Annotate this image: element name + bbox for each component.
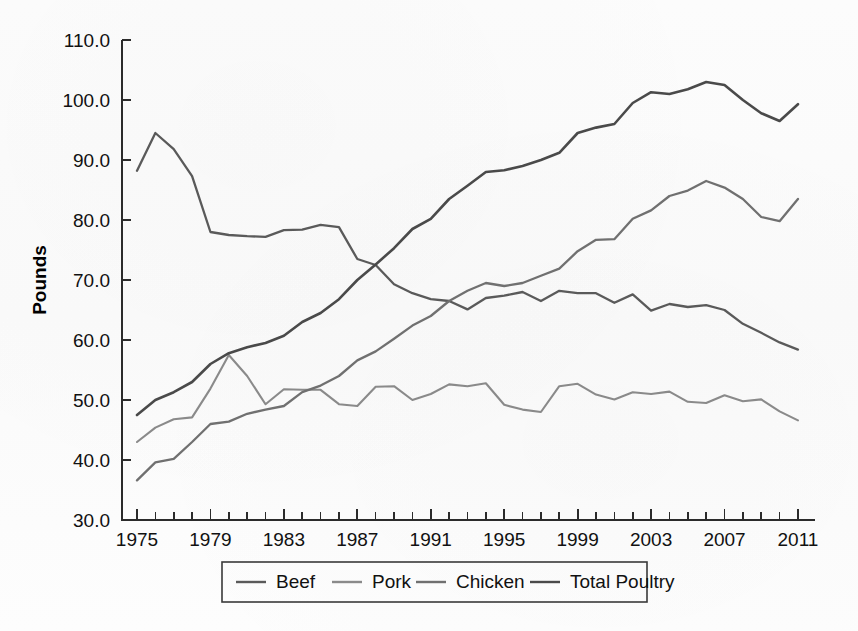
axes — [122, 40, 815, 520]
x-tick-label: 1995 — [483, 529, 525, 550]
x-tick-labels: 1975197919831987199119951999200320072011 — [116, 529, 819, 550]
y-axis-title: Pounds — [29, 245, 50, 315]
axis-lines — [122, 40, 815, 520]
data-series — [137, 82, 798, 480]
legend-label: Total Poultry — [570, 571, 675, 592]
x-tick-label: 1999 — [556, 529, 598, 550]
x-tick-label: 1979 — [189, 529, 231, 550]
series-line-pork — [137, 355, 798, 442]
legend-item-chicken[interactable]: Chicken — [416, 571, 525, 592]
x-tick-label: 1983 — [263, 529, 305, 550]
chart-legend[interactable]: BeefPorkChickenTotal Poultry — [222, 562, 675, 602]
x-tick-label: 1991 — [410, 529, 452, 550]
series-line-total-poultry — [137, 82, 798, 415]
x-tick-label: 1987 — [336, 529, 378, 550]
legend-label: Pork — [372, 571, 412, 592]
legend-item-total-poultry[interactable]: Total Poultry — [530, 571, 675, 592]
legend-item-pork[interactable]: Pork — [332, 571, 412, 592]
series-line-chicken — [137, 181, 798, 480]
y-tick-label: 30.0 — [73, 510, 110, 531]
y-tick-label: 60.0 — [73, 330, 110, 351]
x-tick-label: 2007 — [703, 529, 745, 550]
chart-page: 30.040.050.060.070.080.090.0100.0110.0 1… — [0, 0, 858, 631]
meat-consumption-line-chart: 30.040.050.060.070.080.090.0100.0110.0 1… — [0, 0, 858, 631]
y-tick-label: 40.0 — [73, 450, 110, 471]
y-tick-label: 80.0 — [73, 210, 110, 231]
y-axis-title-text: Pounds — [29, 245, 50, 315]
x-tick-label: 2003 — [630, 529, 672, 550]
legend-label: Chicken — [456, 571, 525, 592]
y-tick-label: 110.0 — [64, 30, 110, 51]
x-tick-label: 2011 — [778, 529, 819, 550]
series-line-beef — [137, 133, 798, 350]
legend-label: Beef — [276, 571, 316, 592]
y-tick-label: 100.0 — [62, 90, 110, 111]
tick-marks — [122, 40, 798, 520]
y-tick-label: 70.0 — [73, 270, 110, 291]
x-tick-label: 1975 — [116, 529, 158, 550]
y-tick-labels: 30.040.050.060.070.080.090.0100.0110.0 — [62, 30, 110, 531]
legend-item-beef[interactable]: Beef — [236, 571, 316, 592]
y-tick-label: 90.0 — [73, 150, 110, 171]
y-tick-label: 50.0 — [73, 390, 110, 411]
